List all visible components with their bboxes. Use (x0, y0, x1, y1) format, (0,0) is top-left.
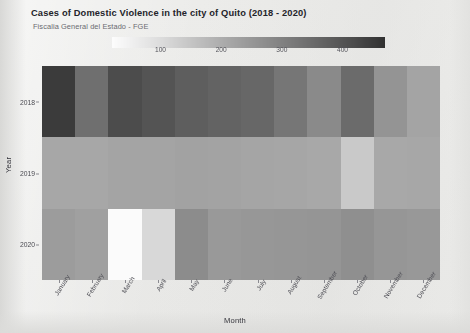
heatmap-cell (341, 209, 374, 280)
colorbar-tick-100: 100 (155, 46, 166, 53)
heatmap-plot-area (42, 66, 440, 280)
heatmap-cell (307, 137, 340, 208)
heatmap-cell (241, 137, 274, 208)
heatmap-cell (142, 209, 175, 280)
heatmap-cell (75, 137, 108, 208)
heatmap-cell (175, 209, 208, 280)
heatmap-cell (374, 137, 407, 208)
chart-subtitle: Fiscalia General del Estado - FGE (33, 22, 148, 31)
colorbar-tick-300: 300 (276, 46, 287, 53)
heatmap-cell (341, 137, 374, 208)
y-tick-2019: 2019 (20, 170, 35, 177)
heatmap-cell (175, 137, 208, 208)
heatmap-cell (241, 66, 274, 137)
heatmap-cell (175, 66, 208, 137)
heatmap-cell (142, 66, 175, 137)
heatmap-cell (307, 209, 340, 280)
y-tick-2020: 2020 (20, 241, 35, 248)
y-tick-2018: 2018 (20, 98, 35, 105)
colorbar-tick-400: 400 (337, 46, 348, 53)
heatmap-cell (307, 66, 340, 137)
chart-title: Cases of Domestic Violence in the city o… (31, 8, 307, 18)
heatmap-cell (274, 137, 307, 208)
heatmap-cell (208, 209, 241, 280)
heatmap-cell (274, 209, 307, 280)
heatmap-cell (42, 137, 75, 208)
heatmap-cell (407, 137, 440, 208)
y-axis-ticks: 201820192020 (0, 66, 40, 280)
colorbar (112, 34, 385, 45)
heatmap-grid (42, 66, 440, 280)
heatmap-cell (108, 209, 141, 280)
colorbar-tick-labels: 100200300400 (112, 46, 385, 56)
heatmap-cell (42, 66, 75, 137)
heatmap-cell (42, 209, 75, 280)
heatmap-cell (208, 137, 241, 208)
heatmap-cell (75, 209, 108, 280)
heatmap-cell (407, 66, 440, 137)
heatmap-cell (274, 66, 307, 137)
heatmap-cell (108, 66, 141, 137)
heatmap-cell (374, 66, 407, 137)
heatmap-cell (407, 209, 440, 280)
heatmap-cell (108, 137, 141, 208)
page-shadow-right (450, 0, 470, 333)
heatmap-cell (241, 209, 274, 280)
x-axis-label: Month (0, 316, 470, 325)
heatmap-cell (341, 66, 374, 137)
heatmap-cell (374, 209, 407, 280)
heatmap-cell (208, 66, 241, 137)
colorbar-tick-200: 200 (216, 46, 227, 53)
y-axis-label: Year (4, 157, 13, 173)
heatmap-cell (142, 137, 175, 208)
heatmap-cell (75, 66, 108, 137)
